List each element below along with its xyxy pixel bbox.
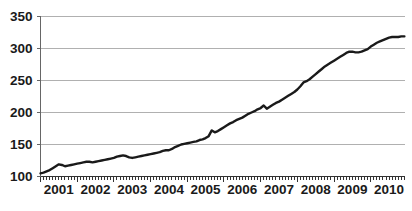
x-tick-label-2002: 2002: [81, 182, 111, 197]
x-tick-label-2008: 2008: [301, 182, 332, 197]
x-tick-label-2006: 2006: [227, 182, 258, 197]
y-tick-label-150: 150: [10, 137, 33, 152]
data-line-group: [41, 36, 405, 173]
y-axis-tick-labels: 100150200250300350: [10, 9, 33, 184]
data-line-series-1: [41, 36, 405, 173]
x-tick-label-2004: 2004: [154, 182, 185, 197]
line-chart: 100150200250300350 200120022003200420052…: [0, 0, 412, 211]
y-tick-label-250: 250: [10, 73, 33, 88]
chart-canvas: 100150200250300350 200120022003200420052…: [0, 0, 412, 211]
y-tick-label-350: 350: [10, 9, 33, 24]
x-tick-label-2003: 2003: [117, 182, 148, 197]
x-tick-label-2005: 2005: [191, 182, 222, 197]
y-tick-label-300: 300: [10, 41, 33, 56]
x-tick-label-2009: 2009: [337, 182, 367, 197]
gridlines: [41, 17, 405, 177]
x-tick-label-2001: 2001: [44, 182, 75, 197]
x-tick-label-2010: 2010: [374, 182, 404, 197]
y-tick-label-200: 200: [10, 105, 33, 120]
x-tick-label-2007: 2007: [264, 182, 294, 197]
y-tick-label-100: 100: [10, 169, 33, 184]
x-axis-minor-ticks: [41, 177, 405, 182]
x-axis-tick-labels: 2001200220032004200520062007200820092010: [44, 182, 404, 197]
